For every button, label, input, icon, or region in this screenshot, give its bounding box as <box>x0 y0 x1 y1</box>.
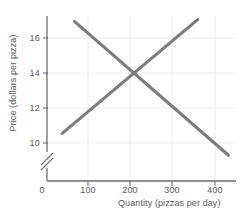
x-axis-ticks <box>88 181 215 186</box>
x-tick-label-0: 0 <box>27 185 57 195</box>
x-tick-label-200: 200 <box>115 185 145 195</box>
y-axis-title: Price (dollars per pizza) <box>8 18 18 148</box>
supply-demand-chart: 16 14 12 10 0 100 200 300 400 Quantity (… <box>0 0 241 218</box>
y-axis-break-icon <box>41 153 53 170</box>
y-tick-label-16: 16 <box>18 33 40 43</box>
vertical-gridlines <box>88 16 215 180</box>
x-axis-title: Quantity (pizzas per day) <box>118 198 221 208</box>
y-tick-label-14: 14 <box>18 68 40 78</box>
x-tick-label-300: 300 <box>157 185 187 195</box>
y-tick-label-10: 10 <box>18 138 40 148</box>
x-tick-label-100: 100 <box>73 185 103 195</box>
x-tick-label-400: 400 <box>200 185 230 195</box>
horizontal-gridlines <box>47 38 236 143</box>
demand-curve-line <box>74 21 228 155</box>
y-tick-label-12: 12 <box>18 103 40 113</box>
